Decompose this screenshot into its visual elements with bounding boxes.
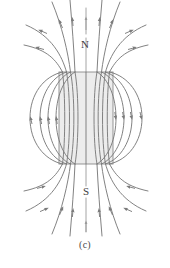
right-loop-arrowheads [115,112,142,118]
south-pole-label: S [78,186,94,197]
left-loop-arrowheads [31,118,58,124]
figure-caption: (c) [0,239,170,250]
north-pole-label: N [77,39,93,50]
magnetic-field-figure: N S (c) [0,0,170,268]
